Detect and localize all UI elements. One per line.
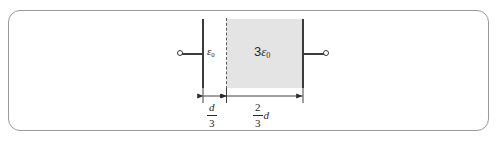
fraction-denominator: 3 (253, 116, 263, 130)
dielectric-region-permittivity-label: 3ε0 (254, 45, 270, 60)
fraction-numerator: d (207, 102, 217, 116)
dimension-label-two-thirds-d: 2 3 d (253, 102, 269, 129)
dielectric-left-boundary-dashed-line (226, 18, 227, 89)
right-terminal-node-icon (323, 50, 329, 56)
figure-root: ε0 3ε0 (0, 0, 499, 144)
capacitor-assembly: ε0 3ε0 (0, 0, 499, 144)
fraction-suffix-d: d (263, 110, 270, 121)
vacuum-epsilon-subscript: 0 (211, 51, 214, 58)
right-lead-wire (303, 53, 324, 55)
vacuum-region-permittivity-label: ε0 (207, 46, 215, 59)
fraction-numerator: 2 (253, 102, 263, 116)
fraction-2-over-3: 2 3 (253, 102, 263, 129)
fraction-denominator: 3 (207, 116, 217, 130)
dimension-label-d-over-3: d 3 (207, 102, 217, 129)
left-lead-wire (182, 53, 203, 55)
fraction-d-over-3: d 3 (207, 102, 217, 129)
dielectric-epsilon-subscript: 0 (266, 51, 270, 60)
left-capacitor-plate (202, 19, 204, 88)
